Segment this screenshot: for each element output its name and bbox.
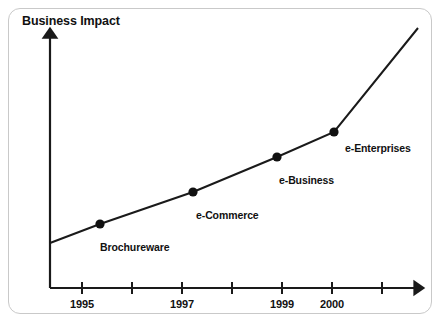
- x-axis-tick-label-1995: 1995: [70, 298, 94, 310]
- data-point-label: e-Business: [279, 174, 334, 186]
- x-axis-tick-label-2000: 2000: [320, 298, 344, 310]
- data-point-label: e-Enterprises: [345, 142, 411, 154]
- data-point-marker: [188, 187, 197, 196]
- x-axis-tick-label-1997: 1997: [170, 298, 194, 310]
- data-point-marker: [272, 152, 281, 161]
- y-axis-title: Business Impact: [22, 14, 120, 28]
- data-point-label: Brochureware: [100, 241, 169, 253]
- x-axis-tick-label-1999: 1999: [270, 298, 294, 310]
- chart-screenshot: Business Impact 1995199719992000 Brochur…: [0, 0, 442, 324]
- data-point-marker: [329, 127, 338, 136]
- data-point-label: e-Commerce: [196, 209, 259, 221]
- data-point-marker: [95, 219, 104, 228]
- chart-canvas: [0, 0, 442, 324]
- x-axis: [50, 282, 416, 294]
